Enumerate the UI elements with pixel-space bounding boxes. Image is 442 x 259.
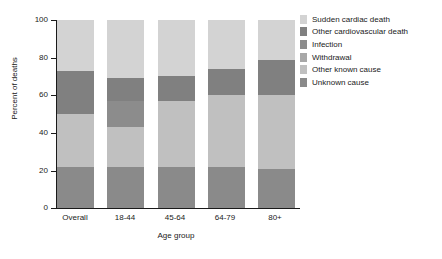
legend-swatch-icon: [300, 78, 307, 87]
legend-swatch-icon: [300, 40, 307, 49]
bar-segment: [107, 167, 144, 208]
legend-label: Other cardiovascular death: [312, 27, 408, 36]
plot-area: [57, 20, 295, 208]
legend-item: Unknown cause: [300, 76, 440, 89]
bar-64-79: [208, 20, 245, 208]
legend-item: Withdrawal: [300, 51, 440, 64]
legend-label: Unknown cause: [312, 78, 369, 87]
y-tick-label-20: 20: [8, 167, 48, 175]
legend-swatch-icon: [300, 65, 307, 74]
bar-segment: [258, 60, 295, 96]
bar-segment: [258, 20, 295, 59]
legend-label: Withdrawal: [312, 53, 352, 62]
bar-segment: [258, 169, 295, 208]
legend-item: Other known cause: [300, 63, 440, 76]
bar-segment: [158, 101, 195, 167]
chart-legend: Sudden cardiac deathOther cardiovascular…: [300, 13, 440, 89]
bar-segment: [57, 114, 94, 167]
legend-label: Sudden cardiac death: [312, 15, 390, 24]
bar-segment: [258, 95, 295, 168]
x-axis-title: Age group: [57, 231, 295, 240]
bar-segment: [158, 20, 195, 76]
y-tick-label-40: 40: [8, 129, 48, 137]
legend-item: Sudden cardiac death: [300, 13, 440, 26]
legend-item: Infection: [300, 38, 440, 51]
bar-18-44: [107, 20, 144, 208]
bar-segment: [107, 20, 144, 78]
x-axis-line: [52, 208, 300, 209]
y-tick-label-100: 100: [8, 16, 48, 24]
legend-swatch-icon: [300, 15, 307, 24]
y-tick-label-60: 60: [8, 91, 48, 99]
bar-segment: [57, 20, 94, 71]
bar-segment: [57, 167, 94, 208]
x-tick-label-80plus: 80+: [245, 213, 305, 222]
legend-swatch-icon: [300, 53, 307, 62]
bar-segment: [208, 167, 245, 208]
bar-overall: [57, 20, 94, 208]
bar-segment: [208, 20, 245, 69]
legend-swatch-icon: [300, 27, 307, 36]
y-tick-label-0: 0: [8, 204, 48, 212]
bar-segment: [158, 167, 195, 208]
stacked-bar-chart: Percent of deaths 100 80 60 40 20 0 Over…: [0, 0, 442, 259]
bar-segment: [57, 71, 94, 114]
y-tick-label-80: 80: [8, 54, 48, 62]
bar-45-64: [158, 20, 195, 208]
bar-segment: [158, 76, 195, 100]
bar-segment: [208, 69, 245, 95]
legend-label: Infection: [312, 40, 342, 49]
bar-segment: [107, 101, 144, 127]
legend-label: Other known cause: [312, 65, 381, 74]
bar-segment: [107, 78, 144, 101]
bars-layer: [57, 20, 295, 208]
bar-segment: [107, 127, 144, 166]
bar-80-: [258, 20, 295, 208]
bar-segment: [208, 95, 245, 166]
legend-item: Other cardiovascular death: [300, 26, 440, 39]
